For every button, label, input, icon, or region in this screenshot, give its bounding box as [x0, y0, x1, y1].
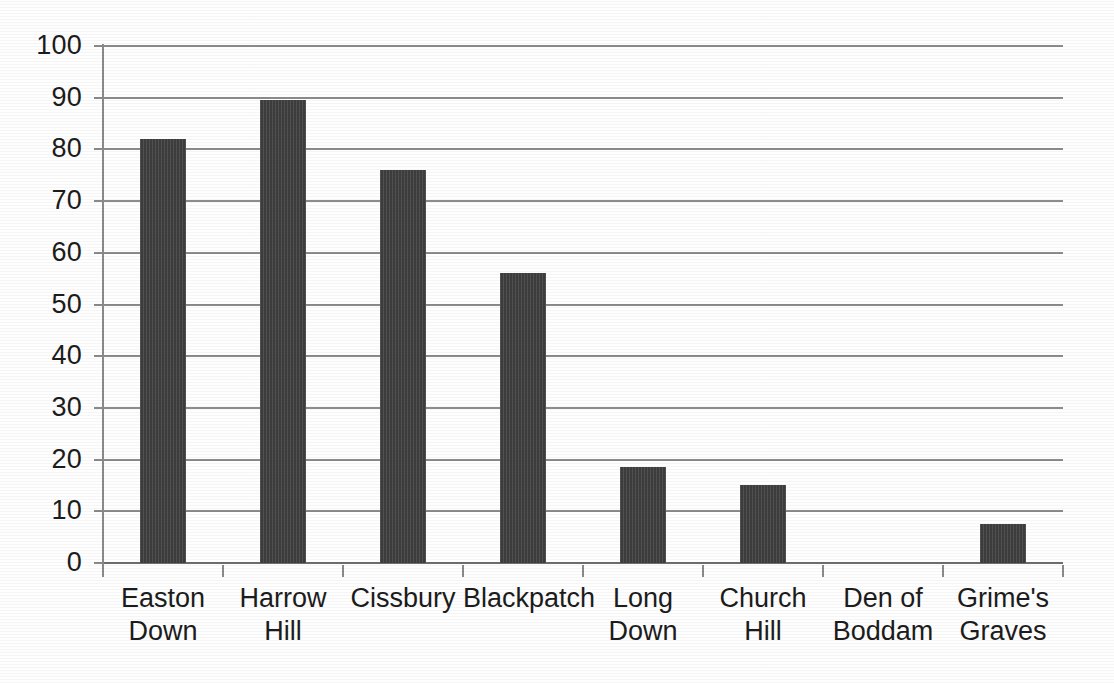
x-axis-tick — [942, 565, 944, 577]
y-axis-tick-label: 40 — [52, 342, 82, 369]
x-axis-tick-label-line: Church Hill — [703, 582, 823, 648]
x-axis-tick-label: Long Down — [583, 582, 703, 648]
x-axis-tick-label-line: Blackpatch — [463, 582, 583, 615]
x-axis-tick-label: Den ofBoddam — [823, 582, 943, 648]
x-axis-tick — [1062, 565, 1064, 577]
bar — [140, 139, 186, 563]
bar — [740, 485, 786, 563]
bar-chart: 0102030405060708090100 EastonDownHarrow … — [0, 0, 1114, 683]
bar-series — [103, 46, 1063, 563]
x-axis-tick-label-line: Long Down — [583, 582, 703, 648]
x-axis-tick — [702, 565, 704, 577]
bar — [260, 100, 306, 563]
x-axis-tick-label-line: Boddam — [823, 615, 943, 648]
x-axis-tick-label-line: Graves — [943, 615, 1063, 648]
y-axis-tick-label: 60 — [52, 239, 82, 266]
x-axis-tick-label-line: Cissbury — [343, 582, 463, 615]
x-axis-tick — [582, 565, 584, 577]
x-axis-tick-label: Cissbury — [343, 582, 463, 615]
x-axis-tick-label-line: Grime's — [943, 582, 1063, 615]
x-axis-tick-label-line: Harrow Hill — [223, 582, 343, 648]
x-axis-tick-label: EastonDown — [103, 582, 223, 648]
y-axis-tick-label: 0 — [67, 549, 82, 576]
y-axis-tick-label: 70 — [52, 187, 82, 214]
x-axis-tick-label: Harrow Hill — [223, 582, 343, 648]
x-axis-tick-label-line: Down — [103, 615, 223, 648]
bar — [500, 273, 546, 563]
y-axis-tick-label: 10 — [52, 497, 82, 524]
y-axis-tick-label: 50 — [52, 291, 82, 318]
x-axis-tick-label-line: Den of — [823, 582, 943, 615]
bar — [380, 170, 426, 563]
x-axis-tick-label: Church Hill — [703, 582, 823, 648]
x-axis-tick-label: Blackpatch — [463, 582, 583, 615]
x-axis-tick — [462, 565, 464, 577]
bar — [620, 467, 666, 563]
y-axis-tick-label: 80 — [52, 135, 82, 162]
y-axis-tick-label: 30 — [52, 394, 82, 421]
x-axis-tick — [222, 565, 224, 577]
x-axis-tick-label-line: Easton — [103, 582, 223, 615]
x-axis-tick-label: Grime'sGraves — [943, 582, 1063, 648]
x-axis-tick — [102, 565, 104, 577]
bar — [980, 524, 1026, 563]
y-axis-tick-label: 100 — [36, 32, 82, 59]
x-axis-tick — [342, 565, 344, 577]
y-axis-tick-label: 20 — [52, 446, 82, 473]
x-axis-tick-labels: EastonDownHarrow HillCissburyBlackpatchL… — [103, 582, 1063, 672]
x-axis-tick — [822, 565, 824, 577]
y-axis-tick-label: 90 — [52, 84, 82, 111]
